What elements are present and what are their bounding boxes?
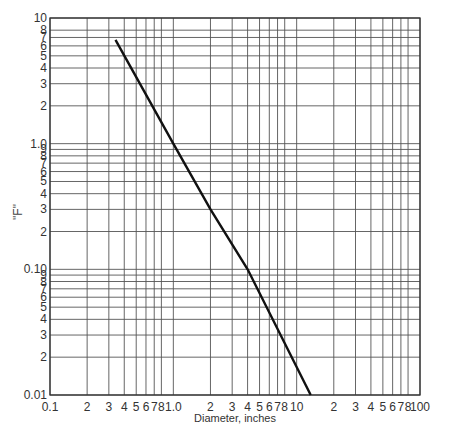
y-tick-label: 3	[40, 77, 47, 91]
y-gridlines	[50, 18, 420, 395]
x-tick-label: 6	[143, 400, 150, 414]
x-tick-label: 2	[84, 400, 91, 414]
y-axis-label: "F"	[11, 204, 25, 220]
x-gridlines	[50, 18, 420, 395]
x-axis-label: Diameter, inches	[194, 412, 276, 424]
x-tick-label: 2	[330, 400, 337, 414]
log-log-chart: 0.123456781.02345678102345678100 1087654…	[0, 0, 451, 445]
series-line	[116, 40, 311, 395]
x-tick-label: 4	[121, 400, 128, 414]
x-tick-label: 0.1	[42, 400, 59, 414]
y-tick-labels: 1087654321.0987654320.10987654320.01	[24, 11, 48, 402]
x-tick-label: 5	[380, 400, 387, 414]
y-tick-label: 4	[40, 61, 47, 75]
y-tick-label: 2	[40, 225, 47, 239]
y-tick-label: 0.01	[24, 388, 48, 402]
y-tick-label: 2	[40, 99, 47, 113]
x-tick-label: 100	[410, 400, 430, 414]
y-tick-label: 3	[40, 202, 47, 216]
x-tick-label: 5	[133, 400, 140, 414]
x-tick-label: 3	[352, 400, 359, 414]
x-tick-label: 1.0	[165, 400, 182, 414]
x-tick-label: 3	[106, 400, 113, 414]
x-tick-label: 7	[151, 400, 158, 414]
y-tick-label: 4	[40, 187, 47, 201]
y-tick-label: 2	[40, 350, 47, 364]
x-tick-label: 8	[281, 400, 288, 414]
x-tick-label: 4	[368, 400, 375, 414]
x-tick-label: 6	[389, 400, 396, 414]
x-tick-label: 7	[398, 400, 405, 414]
y-tick-label: 3	[40, 328, 47, 342]
data-series	[116, 40, 311, 395]
y-tick-label: 4	[40, 312, 47, 326]
plot-frame	[50, 18, 420, 395]
x-tick-label: 8	[158, 400, 165, 414]
x-tick-label: 10	[290, 400, 304, 414]
